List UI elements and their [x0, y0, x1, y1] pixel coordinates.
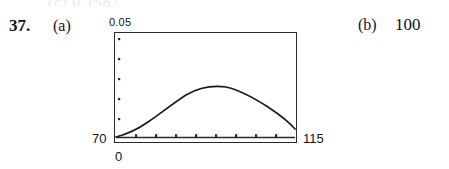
- calculator-plot: [114, 32, 297, 143]
- clipped-previous-row-text: (c) 0.1587: [48, 0, 238, 6]
- plot-x-max-label: 115: [303, 131, 324, 146]
- density-curve-svg: [114, 32, 297, 143]
- density-curve-path: [116, 86, 295, 137]
- plot-x-min-label: 70: [92, 131, 106, 146]
- plot-y-max-label: 0.05: [109, 16, 131, 28]
- answer-key-page: (c) 0.1587 37. (a) 0.05: [0, 0, 449, 169]
- part-a-label: (a): [53, 17, 71, 35]
- problem-number: 37.: [9, 16, 30, 36]
- part-b-answer: 100: [395, 15, 421, 35]
- y-axis-ticks: [118, 38, 120, 120]
- plot-y-min-label: 0: [115, 149, 122, 164]
- part-b-label: (b): [358, 16, 377, 34]
